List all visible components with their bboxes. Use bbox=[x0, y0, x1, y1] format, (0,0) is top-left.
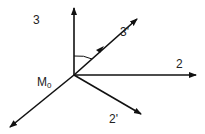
coordinate-axes-diagram: 3 3' 2 2' M0 bbox=[0, 0, 205, 134]
origin-label-main: M bbox=[37, 75, 47, 89]
origin-label-subscript: 0 bbox=[47, 81, 52, 90]
axis-3-label: 3 bbox=[33, 13, 40, 27]
axis-3-prime-label: 3' bbox=[120, 25, 129, 39]
axis-2-prime-line bbox=[74, 75, 141, 114]
axis-2-label: 2 bbox=[176, 57, 183, 71]
origin-label: M0 bbox=[37, 75, 52, 90]
angle-arc bbox=[74, 56, 92, 59]
axis-2-prime-label: 2' bbox=[109, 112, 118, 126]
